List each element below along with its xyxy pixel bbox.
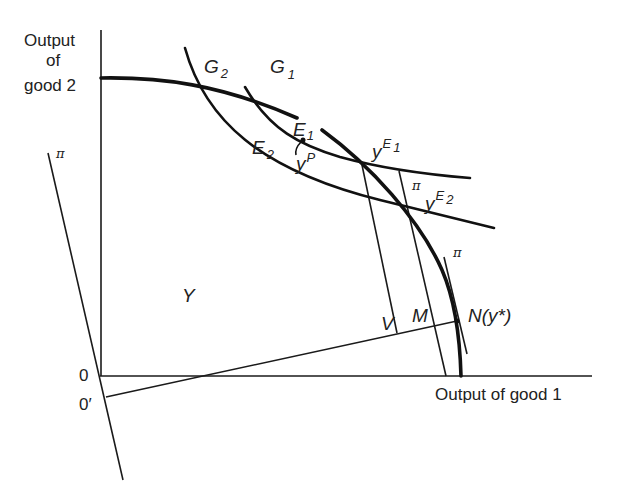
curve-G1-E1 bbox=[245, 87, 470, 178]
point-N bbox=[455, 319, 460, 324]
label-pi-left: π bbox=[55, 146, 65, 161]
line-origin-prime-to-N bbox=[106, 321, 457, 397]
label-G1: G1 bbox=[270, 56, 295, 82]
label-E1: E1 bbox=[293, 119, 314, 143]
trade-equilibrium-diagram: Output of good 2 Output of good 1 0 0′ G… bbox=[0, 0, 618, 500]
label-pi-mid: π bbox=[411, 178, 421, 193]
label-E2: E2 bbox=[252, 137, 275, 162]
ppf-lower-curve bbox=[322, 130, 461, 376]
pi-tangent-at-N bbox=[444, 257, 467, 354]
y-axis-label-3: good 2 bbox=[24, 76, 76, 95]
label-pi-right: π bbox=[452, 245, 462, 260]
label-N: N(y*) bbox=[468, 305, 511, 326]
pi-rotated-axis bbox=[48, 153, 123, 480]
label-G2: G2 bbox=[204, 56, 229, 81]
origin-label: 0 bbox=[79, 366, 88, 385]
label-yE2: yE2 bbox=[423, 188, 454, 214]
y-axis-label-1: Output bbox=[24, 31, 75, 50]
origin-prime-label: 0′ bbox=[79, 395, 92, 414]
line-yE1-to-V bbox=[362, 165, 397, 333]
label-M: M bbox=[412, 305, 428, 326]
x-axis-label: Output of good 1 bbox=[435, 385, 562, 404]
label-yE1: yE1 bbox=[370, 136, 400, 162]
y-axis-label-2: of bbox=[46, 51, 60, 70]
label-yP: yP bbox=[294, 150, 316, 174]
label-Y-region: Y bbox=[182, 285, 196, 306]
